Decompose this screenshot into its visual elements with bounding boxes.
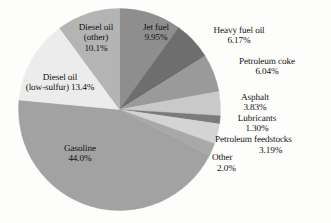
slice-value-gasoline: 44.0% <box>42 153 118 163</box>
slice-label-diesel-oil-low-sulfur-line1: Diesel oil <box>5 72 115 82</box>
slice-label-petroleum-coke: Petroleum coke 6.04% <box>218 56 316 77</box>
slice-label-heavy-fuel-oil-line1: Heavy fuel oil <box>195 25 283 35</box>
slice-label-petroleum-feedstocks-line1: Petroleum feedstocks <box>215 134 331 144</box>
slice-label-diesel-oil-other-line1: Diesel oil <box>62 22 130 32</box>
slice-label-jet-fuel: Jet fuel 9.95% <box>128 22 184 43</box>
slice-value-asphalt: 3.83% <box>224 102 286 112</box>
slice-label-other-line1: Other <box>212 152 258 162</box>
slice-label-diesel-oil-low-sulfur: Diesel oil (low-sulfur) 13.4% <box>5 72 115 93</box>
slice-label-diesel-oil-other: Diesel oil (other) 10.1% <box>62 22 130 53</box>
slice-label-other: Other <box>212 152 258 162</box>
slice-label-gasoline: Gasoline 44.0% <box>42 143 118 164</box>
slice-value-petroleum-feedstocks-wrap: 3.19% <box>259 145 305 155</box>
slice-value-jet-fuel: 9.95% <box>128 32 184 42</box>
slice-label-diesel-oil-other-line2: (other) <box>62 32 130 42</box>
slice-value-other: 2.0% <box>217 163 263 173</box>
pie-chart-figure: Diesel oil (other) 10.1% Jet fuel 9.95% … <box>0 0 331 223</box>
slice-value-heavy-fuel-oil: 6.17% <box>195 35 283 45</box>
slice-label-asphalt: Asphalt 3.83% <box>224 92 286 113</box>
slice-value-diesel-oil-low-sulfur: (low-sulfur) 13.4% <box>5 82 115 92</box>
slice-value-petroleum-feedstocks: 3.19% <box>259 145 305 155</box>
slice-label-gasoline-line1: Gasoline <box>42 143 118 153</box>
slice-value-petroleum-coke: 6.04% <box>218 66 316 76</box>
slice-label-jet-fuel-line1: Jet fuel <box>128 22 184 32</box>
slice-label-lubricants: Lubricants 1.30% <box>221 113 293 134</box>
slice-label-petroleum-feedstocks: Petroleum feedstocks <box>215 134 331 144</box>
slice-label-lubricants-line1: Lubricants <box>221 113 293 123</box>
slice-value-diesel-oil-other: 10.1% <box>62 43 130 53</box>
slice-label-heavy-fuel-oil: Heavy fuel oil 6.17% <box>195 25 283 46</box>
slice-value-lubricants: 1.30% <box>221 123 293 133</box>
slice-label-petroleum-coke-line1: Petroleum coke <box>218 56 316 66</box>
slice-label-asphalt-line1: Asphalt <box>224 92 286 102</box>
slice-value-other-wrap: 2.0% <box>217 163 263 173</box>
